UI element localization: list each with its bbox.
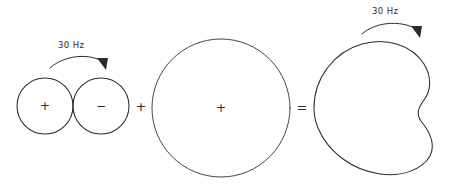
- curved-arrow-clockwise-icon-head: [411, 26, 422, 38]
- figure-canvas: + − + + =: [0, 0, 455, 186]
- operator-plus: +: [136, 99, 147, 114]
- result-cardioid: [314, 41, 432, 174]
- left-rotation-arrow-group: [50, 56, 108, 70]
- small-circle-positive-sign: +: [40, 99, 50, 113]
- right-frequency-label: 30 Hz: [372, 6, 398, 16]
- equation-figure: + − + + = 30 Hz 30 Hz: [0, 0, 455, 186]
- curved-arrow-clockwise-icon-head: [97, 58, 108, 70]
- large-circle-sign: +: [216, 101, 226, 115]
- small-circle-negative-sign: −: [96, 99, 106, 113]
- left-frequency-label: 30 Hz: [58, 40, 84, 50]
- operator-equals: =: [297, 100, 308, 115]
- curved-arrow-clockwise-icon: [50, 56, 103, 68]
- curved-arrow-clockwise-icon: [362, 23, 417, 34]
- right-rotation-arrow-group: [362, 23, 422, 38]
